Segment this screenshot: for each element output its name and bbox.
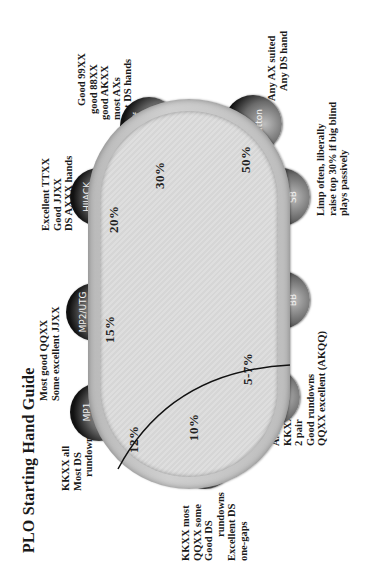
note-line: QQXX excellent (AKQQ) (316, 331, 328, 446)
note-line: one-gaps (238, 492, 250, 561)
plo-guide-diagram: PLO Starting Hand Guide KKXX all Most DS… (0, 0, 376, 561)
page-title: PLO Starting Hand Guide (20, 367, 38, 553)
note-line: raise top 30% if big blind (327, 102, 339, 216)
note-line: good 88XX (88, 53, 100, 126)
note-line: most AXs (111, 53, 123, 126)
note-button: Any AX suited Any DS hand (266, 31, 289, 101)
note-line: Any DS hand (278, 31, 290, 101)
note-line: QQXX some (192, 492, 204, 561)
note-line: plays passively (338, 102, 350, 216)
note-utg1: KKXX most QQXX some Good DS rundowns Exc… (180, 492, 249, 561)
note-line: Excellent DS (226, 492, 238, 561)
note-blinds: Limp often, liberally raise top 30% if b… (315, 102, 350, 216)
note-line: Good DS (203, 492, 215, 561)
seat-label: MP2/UTG (78, 283, 88, 341)
note-line: good AKXX (99, 53, 111, 126)
pct-mp2: 15% (102, 316, 118, 344)
note-line: Good 99XX (76, 53, 88, 126)
pct-utg: 5-7% (240, 353, 256, 385)
note-line: Limp often, liberally (315, 102, 327, 216)
note-line: Some excellent JJXX (50, 307, 62, 401)
note-line: Good JJXX (52, 156, 64, 231)
pct-hijack: 20% (106, 206, 122, 234)
pct-button: 50% (238, 146, 254, 174)
note-line: rundowns (215, 492, 227, 561)
note-line: Excellent TTXX (40, 156, 52, 231)
note-line: Good rundowns (305, 331, 317, 446)
pct-utg1: 10% (186, 414, 202, 442)
note-line: Most good QQXX (38, 307, 50, 401)
pct-mp1: 12% (126, 426, 142, 454)
note-line: Any AX suited (266, 31, 278, 101)
note-line: KKXX most (180, 492, 192, 561)
note-mp2: Most good QQXX Some excellent JJXX (38, 307, 61, 401)
note-line: KKXX all (60, 432, 72, 491)
pct-cutoff: 30% (152, 162, 168, 190)
